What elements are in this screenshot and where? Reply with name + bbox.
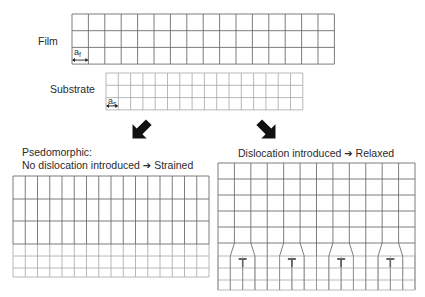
dislocation-introduced-text: Dislocation introduced xyxy=(238,147,341,159)
bent-lattice-plane xyxy=(230,163,234,290)
film-label: Film xyxy=(38,36,58,47)
bent-lattice-plane xyxy=(349,163,353,290)
bent-lattice-plane xyxy=(300,163,304,290)
bent-lattice-plane xyxy=(329,163,333,290)
pseudomorphic-strained-lattice xyxy=(13,176,209,277)
no-dislocation-caption: No dislocation introduced ➔ Strained xyxy=(22,160,193,171)
right-arrow-icon: ➔ xyxy=(143,160,151,171)
right-arrow-icon: ➔ xyxy=(344,148,352,159)
arrow-down-left-icon xyxy=(125,115,155,145)
bent-lattice-plane xyxy=(251,163,255,290)
strained-text: Strained xyxy=(154,159,193,171)
substrate-label: Substrate xyxy=(50,84,95,95)
film-lattice-parameter-label: af xyxy=(74,48,81,58)
film-lattice-grid xyxy=(72,14,334,64)
bent-lattice-plane xyxy=(280,163,284,290)
no-dislocation-text: No dislocation introduced xyxy=(22,159,140,171)
dislocation-caption: Dislocation introduced ➔ Relaxed xyxy=(238,148,394,159)
relaxed-dislocated-lattice xyxy=(218,163,415,290)
arrow-down-right-icon xyxy=(252,115,282,145)
bent-lattice-plane xyxy=(399,163,403,290)
substrate-lattice-grid xyxy=(106,73,303,110)
substrate-lattice-parameter-label: as xyxy=(108,97,117,107)
process-arrows xyxy=(125,115,282,145)
bent-lattice-plane xyxy=(378,163,382,290)
substrate-param-subscript: s xyxy=(113,100,117,107)
relaxed-text: Relaxed xyxy=(356,147,395,159)
pseudomorphic-title: Psedomorphic: xyxy=(22,147,92,158)
film-param-subscript: f xyxy=(79,51,81,58)
